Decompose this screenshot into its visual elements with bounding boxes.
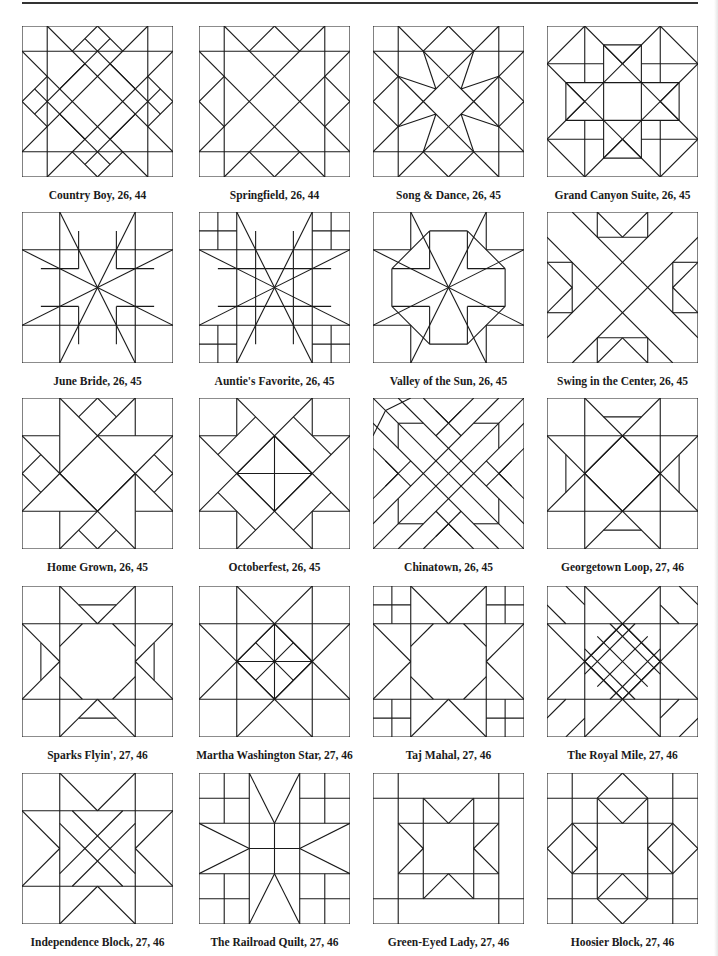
block-border bbox=[547, 773, 698, 924]
block-caption: Octoberfest, 26, 45 bbox=[175, 561, 375, 573]
block-border bbox=[547, 398, 698, 549]
block-caption: Taj Mahal, 27, 46 bbox=[349, 749, 549, 761]
quilt-block-diagram bbox=[547, 586, 698, 737]
block-caption: Green-Eyed Lady, 27, 46 bbox=[349, 936, 549, 948]
quilt-block-diagram bbox=[22, 398, 173, 549]
quilt-block-diagram bbox=[547, 773, 698, 924]
quilt-block-diagram bbox=[373, 773, 524, 924]
block-caption: Valley of the Sun, 26, 45 bbox=[349, 375, 549, 387]
block-border bbox=[373, 773, 524, 924]
quilt-block-diagram bbox=[22, 212, 173, 363]
quilt-block-diagram bbox=[199, 398, 350, 549]
block-border bbox=[22, 586, 173, 737]
block-caption: Home Grown, 26, 45 bbox=[0, 561, 198, 573]
block-caption: Auntie's Favorite, 26, 45 bbox=[175, 375, 375, 387]
block-border bbox=[373, 26, 524, 177]
quilt-block-diagram bbox=[22, 586, 173, 737]
block-caption: The Railroad Quilt, 27, 46 bbox=[175, 936, 375, 948]
quilt-block-diagram bbox=[547, 212, 698, 363]
quilt-block-diagram bbox=[199, 773, 350, 924]
quilt-block-diagram bbox=[547, 26, 698, 177]
block-caption: Grand Canyon Suite, 26, 45 bbox=[523, 189, 718, 201]
block-caption: Country Boy, 26, 44 bbox=[0, 189, 198, 201]
quilt-block-diagram bbox=[373, 212, 524, 363]
quilt-block-diagram bbox=[199, 26, 350, 177]
quilt-block-diagram bbox=[199, 586, 350, 737]
block-caption: Springfield, 26, 44 bbox=[175, 189, 375, 201]
block-border bbox=[22, 26, 173, 177]
block-caption: Independence Block, 27, 46 bbox=[0, 936, 198, 948]
block-border bbox=[547, 26, 698, 177]
block-caption: Sparks Flyin', 27, 46 bbox=[0, 749, 198, 761]
block-caption: Hoosier Block, 27, 46 bbox=[523, 936, 718, 948]
block-caption: June Bride, 26, 45 bbox=[0, 375, 198, 387]
block-border bbox=[547, 212, 698, 363]
block-caption: Chinatown, 26, 45 bbox=[349, 561, 549, 573]
quilt-block-diagram bbox=[547, 398, 698, 549]
block-border bbox=[373, 586, 524, 737]
quilt-block-grid: Country Boy, 26, 44Springfield, 26, 44So… bbox=[0, 0, 718, 956]
quilt-block-diagram bbox=[373, 26, 524, 177]
quilt-block-diagram bbox=[373, 398, 524, 549]
quilt-block-diagram bbox=[22, 773, 173, 924]
block-caption: Song & Dance, 26, 45 bbox=[349, 189, 549, 201]
block-caption: Georgetown Loop, 27, 46 bbox=[523, 561, 718, 573]
block-caption: Martha Washington Star, 27, 46 bbox=[175, 749, 375, 761]
page-edge-shadow bbox=[714, 0, 718, 956]
quilt-block-diagram bbox=[22, 26, 173, 177]
quilt-block-diagram bbox=[199, 212, 350, 363]
block-caption: The Royal Mile, 27, 46 bbox=[523, 749, 718, 761]
quilt-block-diagram bbox=[373, 586, 524, 737]
block-border bbox=[22, 773, 173, 924]
block-border bbox=[22, 398, 173, 549]
block-border bbox=[199, 26, 350, 177]
block-caption: Swing in the Center, 26, 45 bbox=[523, 375, 718, 387]
